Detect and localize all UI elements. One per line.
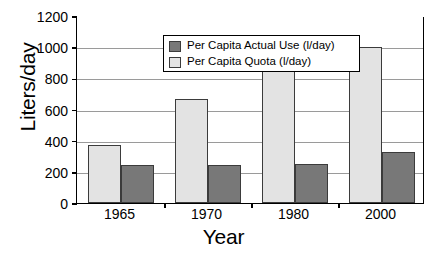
bar-quota-1980 bbox=[262, 69, 295, 203]
x-axis-tick-labels: 1965197019802000 bbox=[76, 207, 424, 227]
legend-label-quota: Per Capita Quota (l/day) bbox=[187, 56, 311, 68]
x-axis-tick-label: 1965 bbox=[75, 207, 165, 222]
x-axis-tick-label: 2000 bbox=[336, 207, 426, 222]
bar-quota-1965 bbox=[88, 145, 121, 203]
x-axis-tick-label: 1980 bbox=[249, 207, 339, 222]
bar-chart: Liters/day 020040060080010001200 Per Cap… bbox=[0, 0, 447, 256]
y-axis-tick-mark bbox=[72, 203, 77, 205]
legend-label-actual-use: Per Capita Actual Use (l/day) bbox=[187, 40, 335, 52]
bar-actual-use-1965 bbox=[121, 165, 154, 203]
bar-quota-1970 bbox=[175, 99, 208, 203]
y-axis-tick-label: 0 bbox=[18, 197, 68, 211]
bar-actual-use-2000 bbox=[382, 152, 415, 203]
x-axis-title: Year bbox=[0, 225, 447, 249]
y-axis-tick-label: 600 bbox=[18, 104, 68, 118]
x-axis-tick-label: 1970 bbox=[162, 207, 252, 222]
legend-swatch-actual-use-icon bbox=[169, 41, 181, 52]
bar-actual-use-1970 bbox=[208, 165, 241, 203]
legend-item-actual-use: Per Capita Actual Use (l/day) bbox=[169, 38, 355, 54]
legend: Per Capita Actual Use (l/day) Per Capita… bbox=[163, 35, 360, 72]
legend-item-quota: Per Capita Quota (l/day) bbox=[169, 54, 355, 70]
y-axis-tick-labels: 020040060080010001200 bbox=[18, 0, 68, 256]
y-axis-tick-label: 1200 bbox=[18, 10, 68, 24]
y-axis-tick-label: 800 bbox=[18, 72, 68, 86]
y-axis-tick-label: 400 bbox=[18, 135, 68, 149]
y-axis-tick-label: 200 bbox=[18, 166, 68, 180]
y-axis-tick-label: 1000 bbox=[18, 41, 68, 55]
bar-actual-use-1980 bbox=[295, 164, 328, 203]
plot-area: Per Capita Actual Use (l/day) Per Capita… bbox=[76, 17, 424, 204]
legend-swatch-quota-icon bbox=[169, 57, 181, 68]
